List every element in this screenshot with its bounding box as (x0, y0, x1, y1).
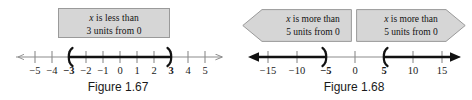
ray-arrow-right-icon (450, 52, 461, 62)
tick-label--4: −4 (46, 65, 57, 76)
tick-label-10: 10 (408, 65, 419, 76)
tick-label-2: 2 (151, 65, 156, 76)
tick-label-4: 4 (185, 65, 190, 76)
tick-label-5: 5 (202, 65, 207, 76)
figure-caption-right: Figure 1.68 (236, 80, 472, 94)
tick-label-3: 3 (168, 65, 173, 76)
figure-1-67: x is less than 3 units from 0 (0, 0, 236, 100)
figure-sheet: x is less than 3 units from 0 (0, 0, 472, 100)
tick-label-0: 0 (117, 65, 122, 76)
tick-label--1: −1 (97, 65, 108, 76)
figure-1-68: x is more than 5 units from 0 x is more … (236, 0, 472, 100)
tick-label--5: −5 (29, 65, 40, 76)
tick-label--5: −5 (320, 65, 331, 76)
tick-label-0: 0 (352, 65, 357, 76)
figure-caption-left: Figure 1.67 (0, 80, 236, 94)
tick-label--10: −10 (289, 65, 305, 76)
ray-arrow-left-icon (248, 52, 259, 62)
tick-label-5: 5 (381, 65, 386, 76)
tick-label--15: −15 (260, 65, 276, 76)
tick-label-15: 15 (437, 65, 448, 76)
tick-label-1: 1 (134, 65, 139, 76)
tick-label--2: −2 (80, 65, 91, 76)
tick-label--3: −3 (63, 65, 74, 76)
